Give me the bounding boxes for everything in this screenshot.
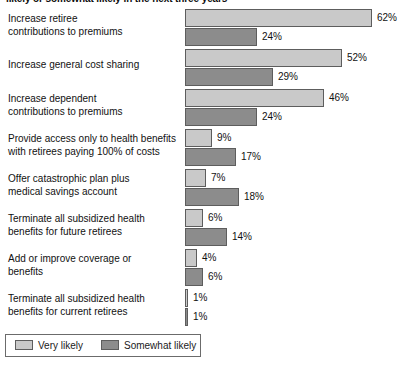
bar-value-label: 24% [257, 28, 282, 46]
bar-somewhat [185, 68, 273, 86]
category-label-line: Provide access only to health benefits [8, 133, 180, 146]
chart-title: likely or somewhat likely in the next th… [6, 0, 386, 7]
category-label-line: benefits [8, 266, 180, 279]
bar-value-label: 52% [342, 49, 367, 67]
bar-somewhat [185, 108, 257, 126]
category-label: Increase dependentcontributions to premi… [8, 93, 180, 118]
bar-pair: 52%29% [185, 49, 367, 87]
bar-pair: 1%1% [185, 289, 207, 327]
legend-swatch-somewhat-likely-icon [101, 340, 119, 350]
category-label: Offer catastrophic plan plusmedical savi… [8, 173, 180, 198]
category-label-line: benefits for current retirees [8, 306, 180, 319]
bar-value-label: 18% [239, 188, 264, 206]
bar-line: 29% [185, 68, 367, 86]
category-label: Provide access only to health benefitswi… [8, 133, 180, 158]
bar-very [185, 9, 372, 27]
bar-value-label: 6% [203, 268, 222, 286]
bar-value-label: 14% [227, 228, 252, 246]
category-label: Add or improve coverage orbenefits [8, 253, 180, 278]
category-label-line: contributions to premiums [8, 106, 180, 119]
category-label-line: Increase general cost sharing [8, 59, 180, 72]
bar-value-label: 4% [197, 249, 216, 267]
bar-value-label: 9% [212, 129, 231, 147]
legend-label-very-likely: Very likely [38, 340, 83, 351]
bar-very [185, 89, 324, 107]
bar-value-label: 1% [188, 308, 207, 326]
bar-somewhat [185, 148, 236, 166]
bar-value-label: 1% [188, 289, 207, 307]
bar-very [185, 169, 206, 187]
legend-item-very-likely: Very likely [15, 340, 83, 352]
bar-line: 1% [185, 289, 207, 307]
chart-plot-area: Increase retireecontributions to premium… [0, 9, 408, 329]
category-label-line: Offer catastrophic plan plus [8, 173, 180, 186]
bar-pair: 46%24% [185, 89, 349, 127]
bar-value-label: 6% [203, 209, 222, 227]
bar-line: 46% [185, 89, 349, 107]
bar-very [185, 129, 212, 147]
category-label-line: with retirees paying 100% of costs [8, 146, 180, 159]
bar-pair: 62%24% [185, 9, 397, 47]
legend-swatch-very-likely-icon [15, 340, 33, 350]
bar-line: 9% [185, 129, 261, 147]
bar-line: 6% [185, 209, 252, 227]
bar-pair: 9%17% [185, 129, 261, 167]
bar-pair: 4%6% [185, 249, 222, 287]
bar-line: 14% [185, 228, 252, 246]
category-label-line: Increase dependent [8, 93, 180, 106]
category-label-line: benefits for future retirees [8, 226, 180, 239]
category-label-line: Add or improve coverage or [8, 253, 180, 266]
bar-line: 1% [185, 308, 207, 326]
category-label-line: contributions to premiums [8, 26, 180, 39]
bar-value-label: 7% [206, 169, 225, 187]
bar-line: 62% [185, 9, 397, 27]
bar-value-label: 62% [372, 9, 397, 27]
category-label-line: medical savings account [8, 186, 180, 199]
bar-pair: 6%14% [185, 209, 252, 247]
bar-value-label: 29% [273, 68, 298, 86]
bar-very [185, 49, 342, 67]
bar-somewhat [185, 188, 239, 206]
category-label: Increase general cost sharing [8, 59, 180, 72]
legend-item-somewhat-likely: Somewhat likely [101, 340, 196, 352]
bar-line: 18% [185, 188, 264, 206]
bar-line: 6% [185, 268, 222, 286]
bar-line: 17% [185, 148, 261, 166]
bar-somewhat [185, 228, 227, 246]
category-label: Terminate all subsidized healthbenefits … [8, 293, 180, 318]
category-label-line: Terminate all subsidized health [8, 213, 180, 226]
bar-line: 7% [185, 169, 264, 187]
bar-line: 24% [185, 28, 397, 46]
bar-line: 52% [185, 49, 367, 67]
category-label-line: Terminate all subsidized health [8, 293, 180, 306]
bar-line: 4% [185, 249, 222, 267]
category-label-line: Increase retiree [8, 13, 180, 26]
bar-value-label: 17% [236, 148, 261, 166]
bar-pair: 7%18% [185, 169, 264, 207]
chart-legend: Very likely Somewhat likely [5, 334, 201, 357]
bar-value-label: 46% [324, 89, 349, 107]
legend-label-somewhat-likely: Somewhat likely [124, 340, 196, 351]
bar-value-label: 24% [257, 108, 282, 126]
bar-line: 24% [185, 108, 349, 126]
bar-somewhat [185, 268, 203, 286]
category-label: Terminate all subsidized healthbenefits … [8, 213, 180, 238]
bar-very [185, 249, 197, 267]
bar-very [185, 209, 203, 227]
bar-somewhat [185, 28, 257, 46]
category-label: Increase retireecontributions to premium… [8, 13, 180, 38]
